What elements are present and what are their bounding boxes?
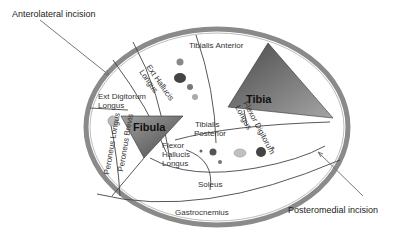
vessel-anterior-3 bbox=[192, 94, 198, 100]
tibialis-posterior-label-2: Posterior bbox=[194, 129, 226, 138]
vessel-posterior-3 bbox=[218, 160, 222, 164]
ext-digitorum-label-1: Ext Digitorum bbox=[98, 92, 146, 101]
flexor-hallucis-label-3: Longus bbox=[162, 159, 188, 168]
fibula-label: Fibula bbox=[133, 121, 166, 133]
vessel-anterior-artery bbox=[174, 73, 186, 83]
posterior-tibial-artery bbox=[256, 147, 266, 157]
tibialis-anterior-label: Tibialis Anterior bbox=[189, 41, 244, 50]
vessel-anterior-2 bbox=[187, 84, 193, 90]
posteromedial-incision-label: Posteromedial incision bbox=[288, 205, 378, 215]
leg-cross-section-diagram: Anterolateral incision Posteromedial inc… bbox=[0, 0, 394, 239]
ext-digitorum-label-2: Longus bbox=[98, 101, 124, 110]
vessel-posterior-1 bbox=[200, 150, 203, 153]
tibialis-posterior-label-1: Tibialis bbox=[195, 120, 220, 129]
vessel-anterior-1 bbox=[177, 59, 184, 66]
tibial-nerve bbox=[234, 149, 246, 157]
anterolateral-arrow-line bbox=[40, 20, 109, 75]
flexor-hallucis-label-1: Flexor bbox=[162, 141, 185, 150]
vessel-posterior-2 bbox=[210, 149, 217, 156]
anterolateral-incision-label: Anterolateral incision bbox=[12, 9, 96, 19]
soleus-label: Soleus bbox=[198, 180, 222, 189]
gastrocnemius-label: Gastrocnemius bbox=[175, 208, 229, 217]
flexor-hallucis-label-2: Hallucis bbox=[162, 150, 190, 159]
